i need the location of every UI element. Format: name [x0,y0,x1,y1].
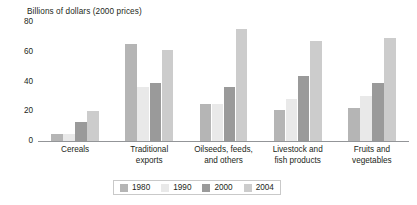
bar [75,122,87,141]
legend-item-1980[interactable]: 1980 [120,184,150,192]
x-axis-label: Traditionalexports [109,145,189,166]
y-tick-label-20: 20 [3,107,33,115]
bar-group [274,22,322,141]
x-axis-label: Fruits andvegetables [332,145,412,166]
legend-swatch-icon [120,184,128,192]
y-tick-label-60: 60 [3,48,33,56]
bar [274,110,286,141]
bar-group [348,22,396,141]
bar [63,134,75,141]
chart-title: Billions of dollars (2000 prices) [27,7,142,16]
legend-item-2004[interactable]: 2004 [244,184,274,192]
x-axis-label-line: Oilseeds, feeds, [183,145,263,156]
bar [162,50,174,141]
x-axis-label-line: fish products [258,156,338,167]
bar [150,83,162,141]
bar-group [51,22,99,141]
bar [51,134,63,141]
legend-swatch-icon [244,184,252,192]
bar-group [200,22,248,141]
x-axis-label-line: Cereals [35,145,115,156]
x-axis-label: Cereals [35,145,115,156]
plot-area [38,22,409,141]
bar [125,44,137,141]
bar [372,83,384,141]
legend-swatch-icon [202,184,210,192]
legend-swatch-icon [161,184,169,192]
legend-label: 2000 [214,184,232,192]
x-axis-label-line: and others [183,156,263,167]
y-tick-label-0: 0 [3,137,33,145]
x-axis-label: Oilseeds, feeds,and others [183,145,263,166]
y-tick-label-40: 40 [3,78,33,86]
bar [236,29,248,141]
x-axis-line [38,141,409,142]
x-axis-label: Livestock andfish products [258,145,338,166]
x-axis-label-line: Livestock and [258,145,338,156]
bar [384,38,396,141]
x-axis-label-line: vegetables [332,156,412,167]
legend-label: 2004 [256,184,274,192]
bar [224,87,236,141]
bar [286,99,298,141]
bar [360,96,372,141]
bar [137,87,149,141]
legend-item-2000[interactable]: 2000 [202,184,232,192]
x-axis-label-line: Fruits and [332,145,412,156]
legend-item-1990[interactable]: 1990 [161,184,191,192]
y-tick-label-80: 80 [3,18,33,26]
x-axis-label-line: exports [109,156,189,167]
y-axis: 806040200 [5,22,33,141]
bar-chart: Billions of dollars (2000 prices) 806040… [0,0,417,205]
bar [298,76,310,141]
legend-label: 1980 [132,184,150,192]
bar-group [125,22,173,141]
bar [200,104,212,141]
bar [348,108,360,141]
x-axis-category-labels: CerealsTraditionalexportsOilseeds, feeds… [38,145,409,173]
chart-legend: 1980199020002004 [113,180,281,195]
bar [310,41,322,141]
legend-label: 1990 [173,184,191,192]
bar [87,111,99,141]
bar [212,104,224,141]
x-axis-label-line: Traditional [109,145,189,156]
